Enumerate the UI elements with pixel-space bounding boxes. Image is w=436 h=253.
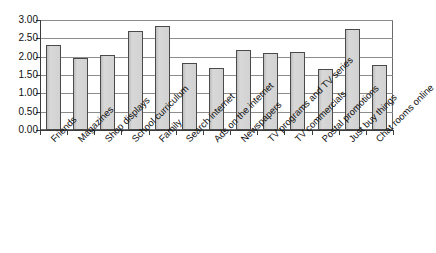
y-tick-label: 2.00 [4, 52, 38, 62]
y-tick-label: 0.00 [4, 125, 38, 135]
y-tick-label: 1.00 [4, 88, 38, 98]
x-tick-mark [40, 130, 41, 135]
bar [46, 45, 61, 130]
y-tick-label: 2.50 [4, 33, 38, 43]
y-tick-label: 3.00 [4, 15, 38, 25]
y-tick-label: 0.50 [4, 107, 38, 117]
y-tick-label: 1.50 [4, 70, 38, 80]
